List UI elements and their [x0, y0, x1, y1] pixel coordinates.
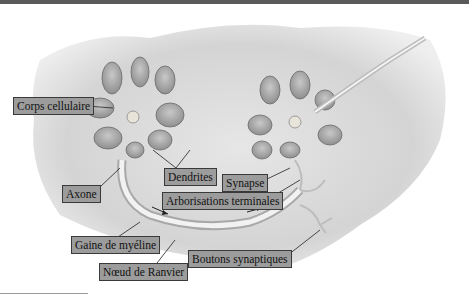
- label-arborisations-terminales: Arborisations terminales: [162, 192, 283, 210]
- label-gaine-de-myeline: Gaine de myéline: [71, 236, 160, 254]
- label-axone: Axone: [62, 185, 101, 203]
- label-synapse: Synapse: [222, 174, 268, 192]
- label-dendrites: Dendrites: [164, 168, 217, 186]
- left-nucleus: [127, 111, 139, 123]
- label-noeud-de-ranvier: Nœud de Ranvier: [99, 263, 188, 281]
- label-boutons-synaptiques: Boutons synaptiques: [188, 250, 292, 268]
- bottom-rule: [0, 293, 88, 294]
- right-nucleus: [289, 116, 301, 128]
- background-wash: [33, 25, 446, 268]
- label-corps-cellulaire: Corps cellulaire: [13, 97, 94, 115]
